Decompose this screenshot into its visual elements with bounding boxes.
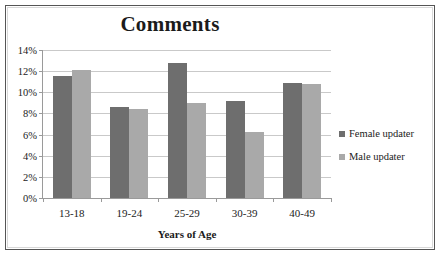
x-axis-tick	[216, 198, 217, 202]
legend-item[interactable]: Female updater	[339, 128, 437, 139]
bar-group-bars	[43, 50, 101, 198]
chart-screenshot: Comments 0%2%4%6%8%10%12%14% 13-1819-242…	[0, 0, 442, 257]
legend-label: Female updater	[349, 128, 414, 139]
bar-female	[226, 101, 245, 198]
x-axis-title: Years of Age	[43, 228, 331, 240]
bar-group-bars	[101, 50, 159, 198]
legend-item[interactable]: Male updater	[339, 151, 437, 162]
bar-female	[110, 107, 129, 198]
legend-label: Male updater	[349, 151, 405, 162]
bar-female	[283, 83, 302, 198]
bar-male	[187, 103, 206, 198]
bar-male	[302, 84, 321, 198]
x-axis-tick	[273, 198, 274, 202]
y-axis-tick-label: 12%	[18, 66, 37, 77]
bar-group: 25-29	[158, 50, 216, 198]
y-axis-tick-label: 10%	[18, 87, 37, 98]
bar-male	[129, 109, 148, 198]
chart-title: Comments	[0, 12, 340, 37]
x-axis-tick	[101, 198, 102, 202]
bar-group-bars	[216, 50, 274, 198]
bar-group: 40-49	[273, 50, 331, 198]
x-axis-tick-label: 30-39	[216, 207, 274, 219]
x-axis-tick	[43, 198, 44, 202]
bar-group-bars	[273, 50, 331, 198]
legend-swatch-female-icon	[339, 131, 345, 137]
y-axis-tick-label: 2%	[23, 171, 37, 182]
bar-male	[245, 132, 264, 198]
legend-swatch-male-icon	[339, 154, 345, 160]
y-axis-tick-label: 6%	[23, 129, 37, 140]
y-axis-tick-label: 0%	[23, 193, 37, 204]
bar-female	[53, 76, 72, 198]
bar-group: 19-24	[101, 50, 159, 198]
x-axis-tick-label: 13-18	[43, 207, 101, 219]
y-axis-tick-label: 14%	[18, 45, 37, 56]
y-axis-tick-label: 4%	[23, 150, 37, 161]
chart-legend: Female updaterMale updater	[339, 128, 437, 174]
x-axis-tick	[331, 198, 332, 202]
y-axis-tick-label: 8%	[23, 108, 37, 119]
bar-group: 13-18	[43, 50, 101, 198]
x-axis-line	[42, 198, 332, 199]
x-axis-tick	[158, 198, 159, 202]
bar-group: 30-39	[216, 50, 274, 198]
bar-male	[72, 70, 91, 198]
x-axis-tick-label: 40-49	[273, 207, 331, 219]
x-axis-tick-label: 25-29	[158, 207, 216, 219]
x-axis-tick-label: 19-24	[101, 207, 159, 219]
bar-group-bars	[158, 50, 216, 198]
plot-area: 0%2%4%6%8%10%12%14% 13-1819-2425-2930-39…	[43, 50, 331, 198]
bar-female	[168, 63, 187, 198]
